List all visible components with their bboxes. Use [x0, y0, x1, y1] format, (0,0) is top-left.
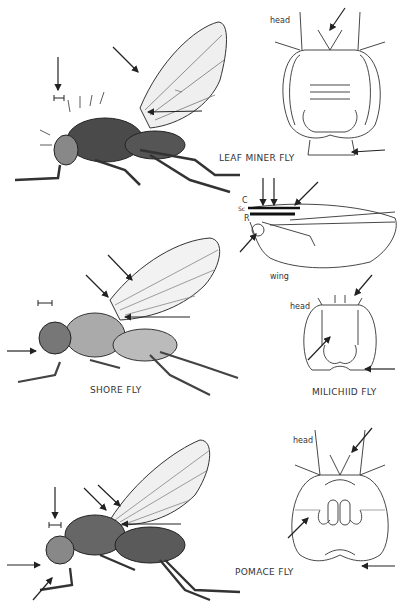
pomace-fly-drawing: [7, 440, 240, 600]
leaf-miner-head-drawing: [275, 8, 385, 155]
wing-label: wing: [270, 272, 289, 281]
milichiid-head-drawing: [304, 275, 395, 370]
wing-vein-sc-label: Sc: [238, 205, 245, 212]
leaf-miner-fly-label: LEAF MINER FLY: [219, 153, 295, 163]
wing-vein-r-label: R: [244, 214, 250, 223]
pomace-fly-label: POMACE FLY: [235, 567, 294, 577]
shore-fly-label: SHORE FLY: [90, 385, 142, 395]
wing-detail-drawing: [240, 178, 396, 268]
leaf-miner-head-label: head: [270, 16, 290, 25]
pomace-head-label: head: [293, 436, 313, 445]
milichiid-fly-label: MILICHIID FLY: [312, 387, 377, 397]
leaf-miner-fly-drawing: [15, 22, 240, 192]
plate-illustration: [0, 0, 402, 616]
milichiid-head-label: head: [290, 302, 310, 311]
wing-vein-c-label: C: [242, 196, 248, 205]
shore-fly-drawing: [7, 238, 238, 395]
pomace-head-drawing: [288, 428, 395, 566]
